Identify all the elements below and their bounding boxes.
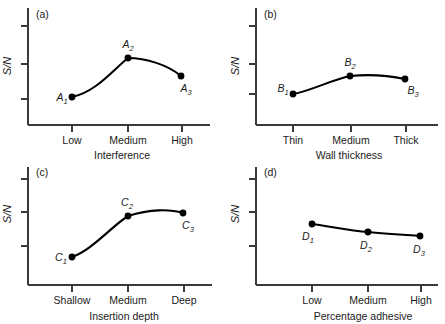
panel-a-y-axis-title: S/N [1, 57, 13, 75]
panel-b-point-1 [290, 91, 297, 98]
panel-c-point-3 [180, 210, 187, 217]
panel-d-x-axis-title: Percentage adhesive [314, 310, 413, 322]
panel-a-x-axis-title: Interference [94, 149, 150, 161]
panel-b-point-label-2: B2 [344, 56, 356, 71]
panel-b-point-2 [347, 73, 354, 80]
panel-c-letter: (c) [36, 166, 48, 178]
panel-b-xtick-label-1: Thin [283, 134, 304, 146]
panel-d-point-1 [309, 221, 316, 228]
panel-c: C1 C2 C3 Shallow Medium Deep Insertion d… [0, 162, 222, 324]
panel-b-y-axis-title: S/N [229, 57, 241, 75]
panel-d-y-axis-title: S/N [229, 205, 241, 223]
panel-c-xtick-label-1: Shallow [54, 294, 91, 306]
panel-d: D1 D2 D3 Low Medium High Percentage adhe… [223, 162, 445, 324]
panel-c-xtick-label-3: Deep [171, 294, 196, 306]
panel-a-point-2 [125, 55, 132, 62]
panel-d-xtick-label-3: High [410, 294, 432, 306]
panel-d-point-3 [417, 233, 424, 240]
panel-b-letter: (b) [264, 8, 277, 20]
panel-d-point-label-1: D1 [302, 230, 314, 245]
panel-d-xtick-label-2: Medium [349, 294, 387, 306]
panel-c-point-label-1: C1 [55, 251, 67, 266]
panel-c-y-axis-title: S/N [1, 205, 13, 223]
panel-a-curve [72, 58, 181, 97]
panel-a-xtick-label-3: High [171, 134, 193, 146]
panel-a: A1 A2 A3 Low Medium High Interference S/… [0, 0, 222, 162]
panel-c-point-label-3: C3 [182, 219, 195, 234]
panel-a-point-label-3: A3 [179, 82, 192, 97]
panel-d-point-label-2: D2 [360, 239, 373, 254]
panel-b-xtick-label-3: Thick [393, 134, 419, 146]
panel-b-point-label-1: B1 [277, 82, 288, 97]
figure-container: A1 A2 A3 Low Medium High Interference S/… [0, 0, 445, 324]
panel-b-xtick-label-2: Medium [332, 134, 370, 146]
panel-a-letter: (a) [36, 8, 49, 20]
panel-c-point-1 [69, 254, 76, 261]
panel-c-xtick-label-2: Medium [109, 294, 147, 306]
panel-c-x-axis-title: Insertion depth [89, 310, 159, 322]
panel-b-x-axis-title: Wall thickness [316, 149, 383, 161]
panel-d-xtick-label-1: Low [302, 294, 322, 306]
panel-b-point-label-3: B3 [407, 84, 419, 99]
panel-c-point-2 [125, 213, 132, 220]
panel-b-point-3 [402, 76, 409, 83]
panel-a-point-3 [178, 73, 185, 80]
panel-d-point-2 [365, 229, 372, 236]
panel-c-point-label-2: C2 [121, 196, 134, 211]
panel-a-xtick-label-1: Low [62, 134, 82, 146]
panel-d-letter: (d) [264, 166, 277, 178]
panel-b: B1 B2 B3 Thin Medium Thick Wall thicknes… [223, 0, 445, 162]
panel-d-point-label-3: D3 [413, 243, 426, 258]
panel-a-point-label-2: A2 [121, 38, 134, 53]
panel-a-point-label-1: A1 [55, 91, 67, 106]
panel-a-xtick-label-2: Medium [109, 134, 147, 146]
panel-a-point-1 [69, 94, 76, 101]
